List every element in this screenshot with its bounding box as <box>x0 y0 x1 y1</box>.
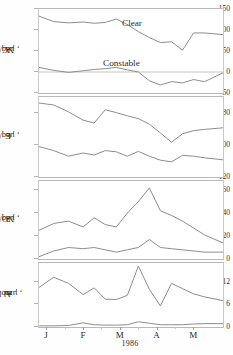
panel-cb-svg <box>39 97 223 177</box>
xtick-label-J-0: J <box>44 330 48 340</box>
xtick-minor-3 <box>175 327 176 329</box>
xtick-minor-0 <box>65 327 66 329</box>
panel-no3-ylabel: NO3-, µeq/l <box>0 180 16 258</box>
panel-anc: ANC, µeq/l 150100500-50 Clear Constable <box>0 8 233 92</box>
panel-cb-plot <box>38 96 224 178</box>
panel-anc-ylabel: ANC, µeq/l <box>0 8 16 92</box>
panel-no3-plot <box>38 180 224 260</box>
series-line-constable <box>39 266 223 306</box>
x-axis: JFMAM 1986 <box>38 327 222 347</box>
xtick-minor-1 <box>101 327 102 329</box>
series-line-clear <box>39 103 223 142</box>
series-label-constable-anc: Constable <box>103 58 140 68</box>
xtick-label-F-1: F <box>80 330 85 340</box>
figure-container: ANC, µeq/l 150100500-50 Clear Constable … <box>0 0 233 355</box>
xtick-label-M-4: M <box>189 330 197 340</box>
series-line-constable <box>39 67 223 85</box>
panel-alm-plot <box>38 262 224 328</box>
series-line-clear <box>39 188 223 243</box>
series-line-constable <box>39 147 223 162</box>
series-line-constable <box>39 240 223 257</box>
x-axis-year-label: 1986 <box>122 339 139 348</box>
panel-cb: Cb, µeq/l 280200120 <box>0 96 233 176</box>
series-label-clear-anc: Clear <box>122 18 142 28</box>
xtick-minor-2 <box>138 327 139 329</box>
panel-no3: NO3-, µeq/l 6040200 <box>0 180 233 258</box>
panel-no3-svg <box>39 181 223 259</box>
series-line-clear <box>39 322 223 326</box>
panel-alm-ylabel: Alm, µmol/l <box>0 262 16 326</box>
panel-cb-ylabel: Cb, µeq/l <box>0 96 16 176</box>
xtick-label-A-3: A <box>153 330 160 340</box>
panel-alm-svg <box>39 263 223 327</box>
panel-alm: Alm, µmol/l 1260 <box>0 262 233 326</box>
